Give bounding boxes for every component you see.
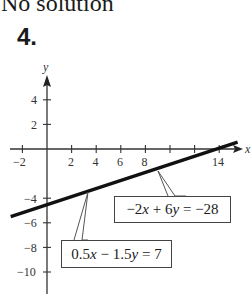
svg-text:6: 6 <box>117 155 123 169</box>
svg-text:2: 2 <box>68 155 74 169</box>
y-tick-labels: 4 2 −4 −6 −8 −10 <box>17 93 37 279</box>
svg-text:8: 8 <box>142 155 148 169</box>
svg-text:−10: −10 <box>17 265 36 279</box>
equation-label-2: 0.5x − 1.5y = 7 <box>61 240 172 268</box>
svg-text:−8: −8 <box>24 241 37 255</box>
svg-text:−4: −4 <box>24 192 37 206</box>
svg-text:−2: −2 <box>13 155 26 169</box>
x-axis-label: x <box>244 142 251 156</box>
y-axis-label: y <box>42 60 49 74</box>
svg-text:4: 4 <box>31 93 37 107</box>
svg-text:4: 4 <box>93 155 99 169</box>
svg-text:14: 14 <box>212 155 224 169</box>
svg-text:−6: −6 <box>24 216 37 230</box>
svg-text:2: 2 <box>31 118 37 132</box>
y-axis: y <box>42 60 51 294</box>
equation-label-1: −2x + 6y = −28 <box>114 196 231 223</box>
